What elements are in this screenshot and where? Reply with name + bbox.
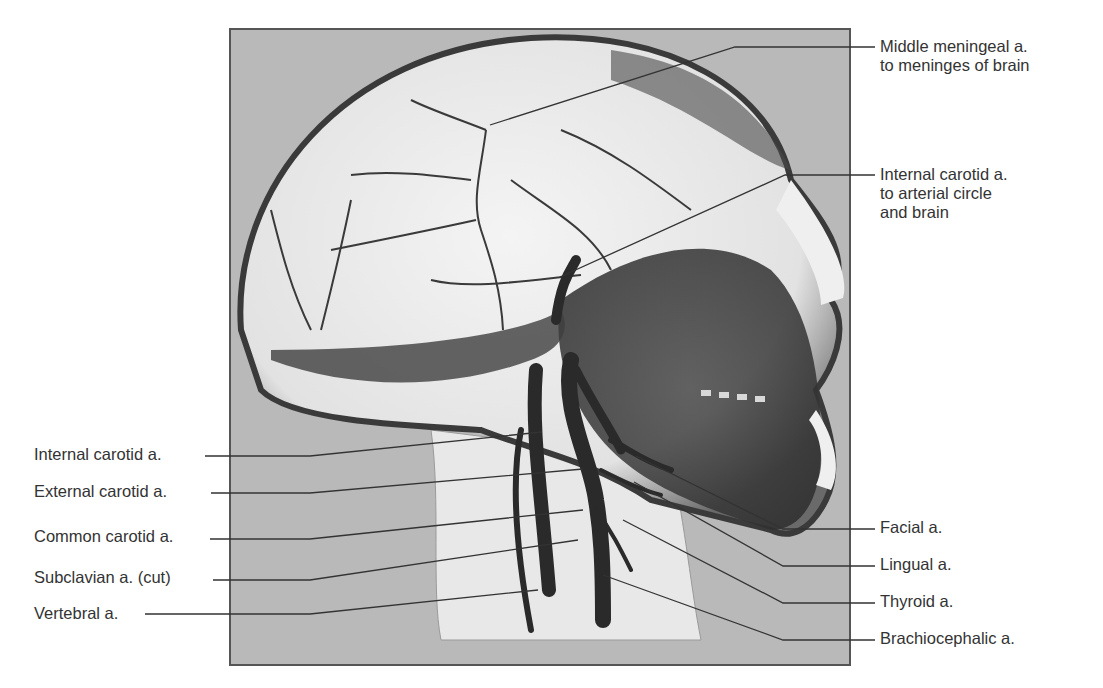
label-lingual: Lingual a. bbox=[880, 555, 952, 574]
label-text-line: Brachiocephalic a. bbox=[880, 629, 1015, 648]
label-text-line: Vertebral a. bbox=[34, 604, 118, 623]
label-text-line: Facial a. bbox=[880, 518, 942, 537]
label-internal-carotid-lower: Internal carotid a. bbox=[34, 445, 162, 464]
label-text-line: External carotid a. bbox=[34, 482, 167, 501]
label-text-line: and brain bbox=[880, 203, 1008, 222]
label-text-line: Middle meningeal a. bbox=[880, 37, 1030, 56]
label-common-carotid: Common carotid a. bbox=[34, 527, 173, 546]
label-vertebral: Vertebral a. bbox=[34, 604, 118, 623]
label-text-line: Thyroid a. bbox=[880, 592, 953, 611]
label-internal-carotid-upper: Internal carotid a.to arterial circleand… bbox=[880, 165, 1008, 222]
label-text-line: Subclavian a. (cut) bbox=[34, 568, 171, 587]
label-brachiocephalic: Brachiocephalic a. bbox=[880, 629, 1015, 648]
label-text-line: Internal carotid a. bbox=[34, 445, 162, 464]
label-thyroid: Thyroid a. bbox=[880, 592, 953, 611]
label-facial: Facial a. bbox=[880, 518, 942, 537]
label-text-line: Internal carotid a. bbox=[880, 165, 1008, 184]
angiogram-image-panel bbox=[229, 28, 851, 666]
label-subclavian: Subclavian a. (cut) bbox=[34, 568, 171, 587]
label-middle-meningeal: Middle meningeal a.to meninges of brain bbox=[880, 37, 1030, 75]
label-external-carotid: External carotid a. bbox=[34, 482, 167, 501]
anatomy-figure: Middle meningeal a.to meninges of brainI… bbox=[0, 0, 1103, 688]
skull-angiogram-illustration bbox=[231, 30, 851, 666]
label-text-line: Lingual a. bbox=[880, 555, 952, 574]
label-text-line: Common carotid a. bbox=[34, 527, 173, 546]
label-text-line: to arterial circle bbox=[880, 184, 1008, 203]
label-text-line: to meninges of brain bbox=[880, 56, 1030, 75]
